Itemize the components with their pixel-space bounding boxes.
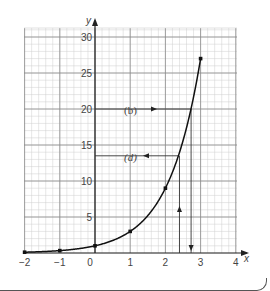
x-tick-label: 0 <box>87 257 93 268</box>
y-tick-label: 10 <box>81 176 93 187</box>
data-point-marker <box>93 244 97 248</box>
y-axis-label: y <box>85 15 92 26</box>
data-point-marker <box>164 186 168 190</box>
y-tick-label: 15 <box>81 140 93 151</box>
data-point-marker <box>199 57 203 61</box>
y-tick-label: 30 <box>81 32 93 43</box>
y-tick-label: 25 <box>81 68 93 79</box>
data-point-marker <box>58 249 62 253</box>
x-tick-label: 4 <box>233 257 239 268</box>
x-tick-label: −1 <box>54 257 66 268</box>
annotation-b-label: (b) <box>124 104 137 117</box>
x-tick-label: 1 <box>127 257 133 268</box>
data-point-marker <box>23 250 27 254</box>
y-tick-label: 5 <box>86 212 92 223</box>
data-point-marker <box>128 230 132 234</box>
axes <box>24 18 249 256</box>
x-tick-label: 3 <box>198 257 204 268</box>
y-tick-label: 20 <box>81 104 93 115</box>
panel-border <box>0 278 267 291</box>
x-axis-label: x <box>243 253 250 264</box>
annotation-d-label: (d) <box>124 151 137 164</box>
x-tick-label: −2 <box>19 257 31 268</box>
major-grid <box>24 28 237 253</box>
x-tick-label: 2 <box>163 257 169 268</box>
